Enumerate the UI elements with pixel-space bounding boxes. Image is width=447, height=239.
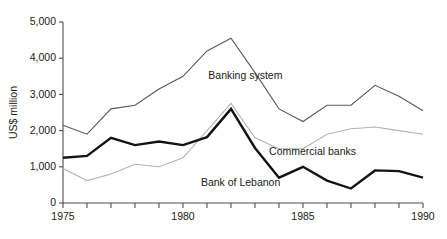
x-tick-label: 1985	[291, 210, 315, 222]
series-annotations: Banking systemCommercial banksBank of Le…	[201, 69, 356, 188]
y-tick-label: 3,000	[30, 88, 56, 100]
y-axis-title-text: US$ million	[7, 86, 19, 139]
y-tick-label: 2,000	[30, 124, 56, 136]
series-label-banking-system: Banking system	[208, 69, 282, 81]
line-chart: 01,0002,0003,0004,0005,000 1975198019851…	[0, 0, 447, 239]
chart-canvas: 01,0002,0003,0004,0005,000 1975198019851…	[0, 0, 447, 239]
x-axis: 1975198019851990	[51, 203, 435, 222]
series-layer	[63, 38, 423, 188]
y-tick-label: 4,000	[30, 51, 56, 63]
x-tick-label: 1980	[171, 210, 195, 222]
x-tick-label: 1975	[51, 210, 75, 222]
x-tick-label: 1990	[411, 210, 435, 222]
y-tick-label: 5,000	[30, 15, 56, 27]
y-axis-title: US$ million	[7, 86, 19, 139]
series-label-commercial-banks: Commercial banks	[269, 145, 356, 157]
y-tick-label: 0	[50, 196, 56, 208]
y-tick-label: 1,000	[30, 160, 56, 172]
series-line-commercial-banks	[63, 103, 423, 180]
y-axis: 01,0002,0003,0004,0005,000	[30, 15, 63, 208]
series-label-bank-of-lebanon: Bank of Lebanon	[201, 176, 281, 188]
